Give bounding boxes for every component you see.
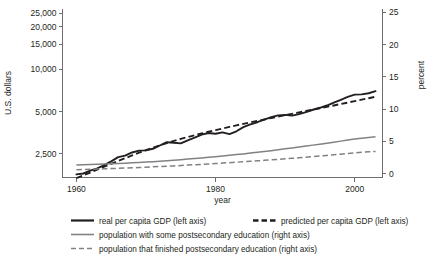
right-tick-label: 5	[389, 136, 394, 146]
left-tick-label: 5,000	[35, 107, 57, 117]
chart-legend: real per capita GDP (left axis)predicted…	[71, 217, 409, 254]
bottom-axis-ticks: 196019802000	[67, 178, 364, 194]
left-tick-label: 25,000	[31, 8, 57, 18]
chart-figure: 2,5005,00010,00015,00020,00025,000 05101…	[0, 0, 438, 261]
right-axis-ticks: 0510152025	[383, 7, 399, 178]
right-tick-label: 15	[389, 72, 399, 82]
left-axis-title: U.S. dollars	[3, 71, 13, 115]
plot-frame	[63, 9, 383, 178]
right-axis-title: percent	[416, 60, 426, 89]
legend-label: predicted per capita GDP (left axis)	[281, 217, 409, 226]
left-axis-ticks: 2,5005,00010,00015,00020,00025,000	[31, 8, 63, 159]
right-tick-label: 0	[389, 169, 394, 179]
bottom-tick-label: 1960	[67, 184, 86, 194]
left-tick-label: 2,500	[35, 149, 57, 159]
series-predicted-per-capita-gdp	[76, 97, 375, 178]
bottom-axis-title: year	[214, 195, 231, 205]
legend-label: population with some postsecondary educa…	[99, 231, 310, 240]
data-series-group	[76, 91, 375, 178]
right-tick-label: 25	[389, 7, 399, 17]
bottom-tick-label: 2000	[345, 184, 364, 194]
legend-label: population that finished postsecondary e…	[99, 245, 317, 254]
series-real-per-capita-gdp	[76, 91, 375, 174]
legend-label: real per capita GDP (left axis)	[99, 217, 207, 226]
left-tick-label: 10,000	[31, 64, 57, 74]
left-tick-label: 15,000	[31, 39, 57, 49]
left-tick-label: 20,000	[31, 22, 57, 32]
chart-svg: 2,5005,00010,00015,00020,00025,000 05101…	[0, 0, 438, 261]
bottom-tick-label: 1980	[206, 184, 225, 194]
right-tick-label: 20	[389, 40, 399, 50]
right-tick-label: 10	[389, 104, 399, 114]
